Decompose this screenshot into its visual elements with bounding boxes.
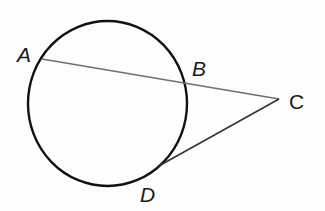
diagram-canvas: A B C D xyxy=(0,0,325,211)
label-a: A xyxy=(15,43,31,66)
label-b: B xyxy=(192,57,206,80)
tangent-line-cd xyxy=(157,99,279,167)
circle xyxy=(28,21,187,186)
label-c: C xyxy=(289,90,304,113)
geometry-diagram: A B C D xyxy=(0,0,325,211)
label-d: D xyxy=(140,183,155,206)
secant-line-ac xyxy=(42,59,279,99)
